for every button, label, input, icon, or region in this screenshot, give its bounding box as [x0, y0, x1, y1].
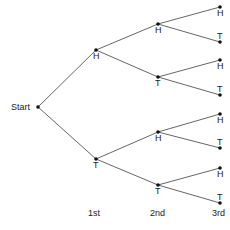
stage-label-3rd: 3rd — [212, 208, 225, 218]
stage-label-2nd: 2nd — [150, 208, 165, 218]
outcome-label-t: T — [93, 160, 99, 170]
tree-branch — [158, 77, 220, 95]
tree-branch — [158, 60, 220, 77]
outcome-label-t: T — [217, 31, 223, 41]
outcome-label-t: T — [217, 137, 223, 147]
stage-label-1st: 1st — [88, 208, 101, 218]
tree-edges — [38, 7, 220, 203]
outcome-label-t: T — [217, 84, 223, 94]
tree-branch — [158, 185, 220, 203]
outcome-label-h: H — [217, 8, 224, 18]
tree-branch — [158, 168, 220, 185]
tree-node-dot — [36, 105, 40, 109]
tree-branch — [158, 132, 220, 148]
outcome-label-t: T — [155, 78, 161, 88]
tree-branch — [158, 114, 220, 132]
start-label: Start — [11, 102, 31, 112]
tree-branch — [38, 50, 96, 107]
tree-branch — [38, 107, 96, 159]
outcome-label-h: H — [217, 169, 224, 179]
outcome-label-h: H — [155, 25, 162, 35]
outcome-label-h: H — [155, 133, 162, 143]
tree-branch — [96, 132, 158, 159]
outcome-label-t: T — [217, 192, 223, 202]
tree-branch — [96, 24, 158, 50]
tree-branch — [158, 7, 220, 24]
probability-tree-diagram: Start 1st 2nd 3rd HTHTHTHTHTHTHT — [0, 0, 230, 230]
outcome-label-h: H — [217, 115, 224, 125]
tree-labels: Start 1st 2nd 3rd HTHTHTHTHTHTHT — [11, 8, 225, 218]
outcome-label-t: T — [155, 186, 161, 196]
tree-branch — [96, 50, 158, 77]
tree-branch — [158, 24, 220, 42]
outcome-label-h: H — [217, 61, 224, 71]
outcome-label-h: H — [93, 51, 100, 61]
tree-branch — [96, 159, 158, 185]
